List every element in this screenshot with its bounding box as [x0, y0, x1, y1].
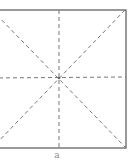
fold-diagram — [0, 0, 133, 163]
diagonal-crease-line-1 — [0, 10, 126, 148]
square-border — [0, 10, 126, 148]
center-point — [58, 77, 61, 80]
figure-caption: a — [50, 150, 64, 160]
horizontal-crease-line — [0, 77, 126, 78]
